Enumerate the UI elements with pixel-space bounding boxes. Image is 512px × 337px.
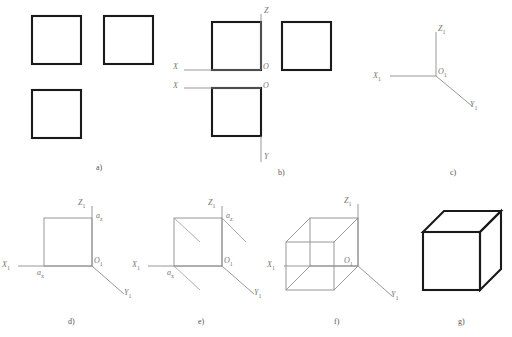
- axonometric-label-y: Y1: [470, 100, 477, 111]
- axonometric-label-z-sub: 1: [348, 201, 351, 207]
- front-face-square: [174, 218, 222, 266]
- panel-f-drawing: [258, 180, 404, 337]
- cube-edge-bottom-left: [286, 266, 310, 290]
- axonometric-label-x: X1: [373, 71, 381, 82]
- point-label-a-z: az: [226, 211, 233, 222]
- axonometric-label-x: X1: [2, 260, 10, 271]
- panel-b-drawing: [170, 0, 340, 180]
- point-label-a-x-sub: x: [41, 273, 44, 279]
- cube-front-face: [423, 232, 480, 290]
- panel-e: Z1 X1 O1 Y1 az ax e): [130, 180, 270, 337]
- ortho-square-side: [282, 22, 331, 70]
- axonometric-label-x-sub: 1: [137, 265, 140, 271]
- panel-label-d: d): [68, 317, 75, 326]
- panel-label-c: c): [450, 168, 456, 177]
- axonometric-axis-y: [358, 266, 392, 296]
- axis-label-origin-lower: O: [263, 81, 269, 90]
- axonometric-label-origin-sub: 1: [100, 261, 103, 267]
- axis-label-z: Z: [264, 6, 268, 15]
- axonometric-label-x-sub: 1: [272, 265, 275, 271]
- cube-edge-top-right: [334, 218, 358, 242]
- axonometric-label-x: X1: [132, 260, 140, 271]
- axonometric-label-origin: O1: [344, 256, 353, 267]
- panel-b: Z X X O O Y b): [170, 0, 340, 180]
- panel-e-drawing: [130, 180, 270, 337]
- axonometric-label-x-sub: 1: [378, 76, 381, 82]
- panel-f: Z1 X1 O1 Y1 f): [258, 180, 404, 337]
- axonometric-label-x-sub: 1: [7, 265, 10, 271]
- axonometric-label-origin: O1: [438, 67, 447, 78]
- axonometric-label-z: Z1: [438, 24, 445, 35]
- cube-edge-bottom-right: [334, 266, 358, 290]
- panel-label-f: f): [334, 317, 339, 326]
- panel-label-g: g): [458, 317, 465, 326]
- axonometric-axis-y: [436, 76, 472, 106]
- panel-a-drawing: [0, 0, 170, 180]
- axonometric-label-z: Z1: [208, 198, 215, 209]
- axonometric-label-origin: O1: [94, 256, 103, 267]
- panel-label-e: e): [198, 317, 204, 326]
- point-label-a-x-sub: x: [171, 273, 174, 279]
- axonometric-label-origin-sub: 1: [230, 261, 233, 267]
- panel-c: Z1 X1 O1 Y1 c): [340, 0, 512, 180]
- ortho-square-top-left: [32, 16, 81, 64]
- axonometric-label-origin-sub: 1: [444, 72, 447, 78]
- panel-d-drawing: [0, 180, 140, 337]
- point-label-a-x: ax: [167, 268, 174, 279]
- point-label-a-x: ax: [37, 268, 44, 279]
- axonometric-label-y-sub: 1: [474, 105, 477, 111]
- axonometric-label-x: X1: [267, 260, 275, 271]
- ortho-square-top: [212, 88, 261, 136]
- cube-edge-top-left: [286, 218, 310, 242]
- cube-right-face: [480, 211, 501, 290]
- ortho-square-top-right: [104, 16, 153, 64]
- axis-label-y: Y: [264, 152, 268, 161]
- depth-line-top-left: [174, 218, 200, 242]
- panel-label-b: b): [278, 168, 285, 177]
- axis-label-x-upper: X: [173, 62, 178, 71]
- axonometric-label-z: Z1: [344, 196, 351, 207]
- ortho-square-bottom-left: [32, 90, 81, 138]
- depth-line-bottom-left: [174, 266, 200, 290]
- point-label-a-z-sub: z: [230, 216, 233, 222]
- panel-g-drawing: [398, 180, 512, 337]
- panel-d: Z1 X1 O1 Y1 az ax d): [0, 180, 140, 337]
- ortho-square-front: [212, 22, 261, 70]
- axis-label-origin-upper: O: [263, 62, 269, 71]
- axonometric-axis-y: [222, 266, 254, 294]
- axonometric-label-z-sub: 1: [82, 203, 85, 209]
- panel-label-a: a): [96, 163, 102, 172]
- panel-c-drawing: [340, 0, 512, 180]
- axonometric-label-z: Z1: [78, 198, 85, 209]
- axonometric-axis-y: [92, 266, 124, 294]
- depth-line-top-right: [222, 218, 246, 242]
- panel-g: g): [398, 180, 512, 337]
- axonometric-label-z-sub: 1: [212, 203, 215, 209]
- axonometric-label-z-sub: 1: [442, 29, 445, 35]
- axonometric-label-origin: O1: [224, 256, 233, 267]
- point-label-a-z-sub: z: [100, 216, 103, 222]
- point-label-a-z: az: [96, 211, 103, 222]
- axis-label-x-lower: X: [173, 81, 178, 90]
- technical-figure: a) Z X X O O Y b) Z1: [0, 0, 512, 337]
- panel-a: a): [0, 0, 170, 180]
- axonometric-label-origin-sub: 1: [350, 261, 353, 267]
- front-face-square: [44, 218, 92, 266]
